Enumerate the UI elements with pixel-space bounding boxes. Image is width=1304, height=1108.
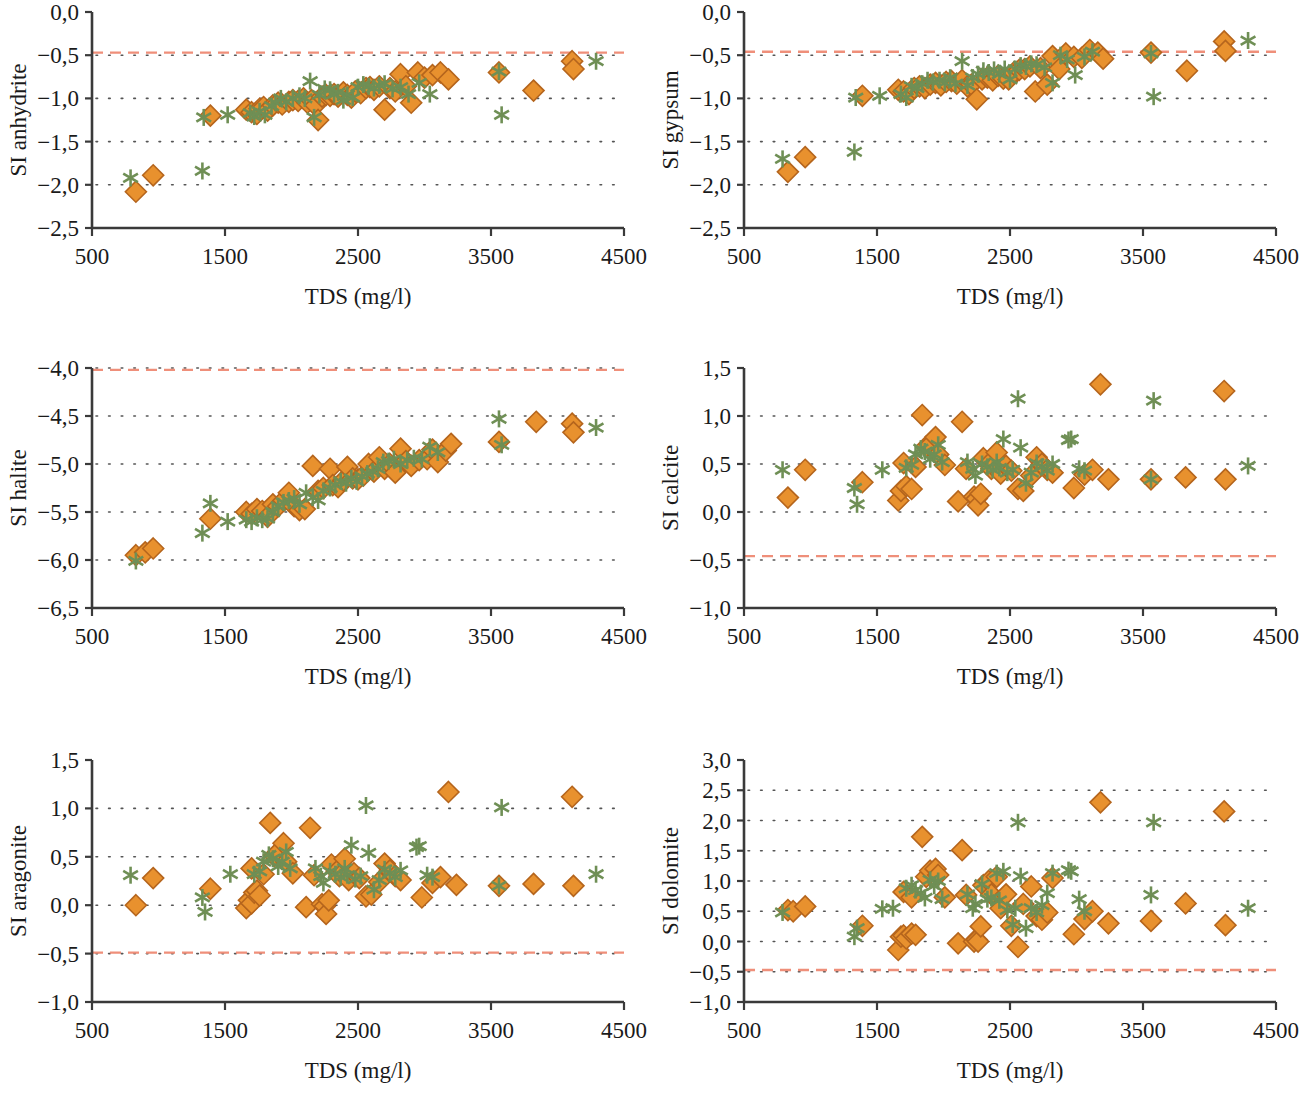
x-tick-label: 3500 bbox=[468, 624, 514, 649]
y-tick-label: −0,5 bbox=[689, 960, 731, 985]
x-tick-label: 500 bbox=[727, 244, 762, 269]
data-point-diamond bbox=[1215, 915, 1236, 936]
x-axis-title: TDS (mg/l) bbox=[305, 664, 412, 689]
x-tick-label: 1500 bbox=[854, 244, 900, 269]
x-tick-label: 3500 bbox=[1120, 624, 1166, 649]
data-point-diamond bbox=[777, 161, 798, 182]
data-point-diamond bbox=[1214, 381, 1235, 402]
data-point-diamond bbox=[526, 411, 547, 432]
y-tick-label: −1,5 bbox=[689, 130, 731, 155]
x-tick-label: 2500 bbox=[987, 624, 1033, 649]
y-tick-label: 1,5 bbox=[50, 748, 79, 773]
data-point-diamond bbox=[125, 895, 146, 916]
y-tick-label: 0,0 bbox=[702, 930, 731, 955]
y-axis-title: SI anhydrite bbox=[6, 63, 31, 176]
data-point-diamond bbox=[300, 817, 321, 838]
y-axis-title: SI aragonite bbox=[6, 825, 31, 937]
x-tick-label: 3500 bbox=[468, 1018, 514, 1043]
x-axis-title: TDS (mg/l) bbox=[957, 664, 1064, 689]
x-tick-label: 2500 bbox=[335, 1018, 381, 1043]
x-tick-label: 1500 bbox=[854, 1018, 900, 1043]
y-tick-label: −0,5 bbox=[37, 43, 79, 68]
data-point-diamond bbox=[143, 868, 164, 889]
y-tick-label: −1,0 bbox=[689, 596, 731, 621]
series-diamond bbox=[125, 411, 584, 565]
x-tick-label: 3500 bbox=[1120, 1018, 1166, 1043]
panel-halite: −4,0−4,5−5,0−5,5−6,0−6,55001500250035004… bbox=[0, 340, 652, 720]
y-tick-label: 1,0 bbox=[702, 404, 731, 429]
panel-calcite: 1,51,00,50,0−0,5−1,05001500250035004500T… bbox=[652, 340, 1304, 720]
panel-anhydrite: 0,0−0,5−1,0−1,5−2,0−2,550015002500350045… bbox=[0, 0, 652, 340]
data-point-diamond bbox=[777, 487, 798, 508]
data-point-diamond bbox=[1007, 936, 1028, 957]
data-point-diamond bbox=[143, 165, 164, 186]
data-point-diamond bbox=[912, 826, 933, 847]
data-point-diamond bbox=[302, 455, 323, 476]
x-axis-title: TDS (mg/l) bbox=[957, 284, 1064, 309]
data-point-diamond bbox=[562, 786, 583, 807]
y-tick-label: 0,0 bbox=[702, 0, 731, 25]
y-tick-label: −0,5 bbox=[689, 548, 731, 573]
data-point-diamond bbox=[523, 873, 544, 894]
y-tick-label: −2,5 bbox=[689, 216, 731, 241]
y-axis-title: SI gypsum bbox=[658, 70, 683, 169]
y-tick-label: 0,5 bbox=[50, 845, 79, 870]
x-tick-label: 1500 bbox=[202, 244, 248, 269]
y-tick-label: 0,5 bbox=[702, 899, 731, 924]
series-asterisk bbox=[775, 814, 1255, 945]
series-diamond bbox=[125, 781, 584, 924]
y-tick-label: −5,5 bbox=[37, 500, 79, 525]
series-diamond bbox=[125, 51, 584, 202]
panel-dolomite: 3,02,52,01,51,00,50,0−0,5−1,050015002500… bbox=[652, 720, 1304, 1108]
data-point-diamond bbox=[952, 411, 973, 432]
x-tick-label: 500 bbox=[727, 1018, 762, 1043]
panel-aragonite: 1,51,00,50,0−0,5−1,05001500250035004500T… bbox=[0, 720, 652, 1108]
y-tick-label: −2,5 bbox=[37, 216, 79, 241]
series-diamond bbox=[777, 792, 1236, 961]
data-point-diamond bbox=[563, 875, 584, 896]
x-tick-label: 2500 bbox=[987, 244, 1033, 269]
x-tick-label: 1500 bbox=[854, 624, 900, 649]
y-tick-label: 3,0 bbox=[702, 748, 731, 773]
series-diamond bbox=[777, 31, 1236, 182]
x-tick-label: 2500 bbox=[335, 624, 381, 649]
x-tick-label: 3500 bbox=[468, 244, 514, 269]
x-tick-label: 2500 bbox=[335, 244, 381, 269]
data-point-diamond bbox=[795, 459, 816, 480]
data-point-diamond bbox=[1140, 910, 1161, 931]
y-tick-label: −2,0 bbox=[37, 173, 79, 198]
x-tick-label: 500 bbox=[75, 244, 110, 269]
y-tick-label: −0,5 bbox=[37, 942, 79, 967]
data-point-diamond bbox=[1090, 374, 1111, 395]
y-tick-label: 1,5 bbox=[702, 356, 731, 381]
y-tick-label: −5,0 bbox=[37, 452, 79, 477]
series-diamond bbox=[777, 374, 1236, 516]
y-tick-label: −2,0 bbox=[689, 173, 731, 198]
y-tick-label: −1,0 bbox=[689, 86, 731, 111]
data-point-diamond bbox=[795, 147, 816, 168]
y-tick-label: −6,5 bbox=[37, 596, 79, 621]
y-tick-label: 0,0 bbox=[50, 893, 79, 918]
x-tick-label: 1500 bbox=[202, 624, 248, 649]
y-tick-label: −1,0 bbox=[689, 990, 731, 1015]
y-tick-label: 2,5 bbox=[702, 778, 731, 803]
y-tick-label: 0,0 bbox=[50, 0, 79, 25]
x-tick-label: 500 bbox=[727, 624, 762, 649]
gridlines bbox=[96, 55, 624, 185]
y-tick-label: 1,0 bbox=[702, 869, 731, 894]
data-point-diamond bbox=[1215, 469, 1236, 490]
y-tick-label: −6,0 bbox=[37, 548, 79, 573]
data-point-diamond bbox=[1176, 60, 1197, 81]
x-tick-label: 4500 bbox=[601, 624, 647, 649]
data-point-diamond bbox=[952, 840, 973, 861]
y-tick-label: −1,0 bbox=[37, 86, 79, 111]
y-tick-label: −1,5 bbox=[37, 130, 79, 155]
x-axis-title: TDS (mg/l) bbox=[305, 1058, 412, 1083]
x-tick-label: 2500 bbox=[987, 1018, 1033, 1043]
x-tick-label: 4500 bbox=[1253, 624, 1299, 649]
y-tick-label: 1,0 bbox=[50, 796, 79, 821]
data-point-diamond bbox=[374, 99, 395, 120]
x-tick-label: 1500 bbox=[202, 1018, 248, 1043]
y-axis-title: SI calcite bbox=[658, 445, 683, 531]
data-point-diamond bbox=[125, 181, 146, 202]
